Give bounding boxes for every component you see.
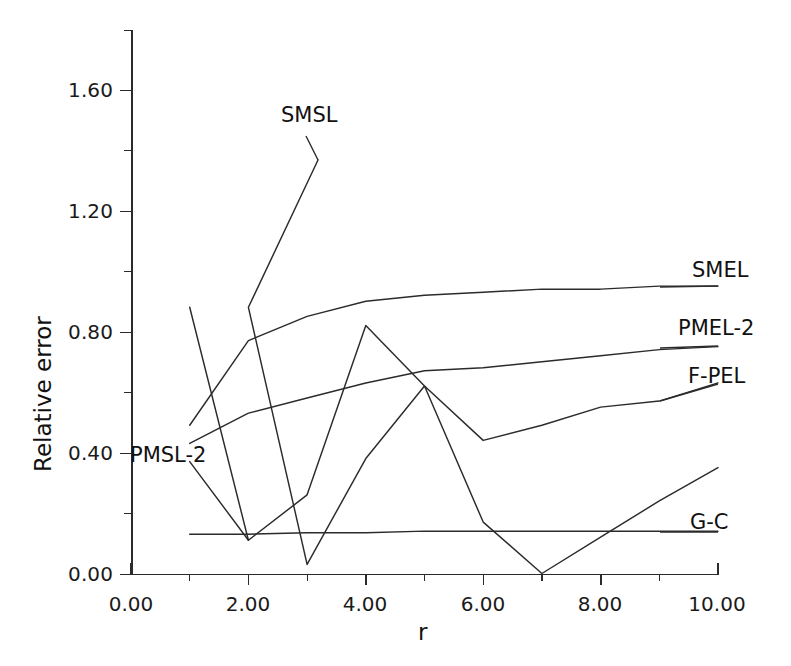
series-line-fpel [190, 307, 718, 540]
series-line-pmel2 [190, 347, 718, 444]
series-label-smsl: SMSL [281, 103, 337, 127]
pmel2-leader-line [660, 346, 718, 348]
x-tick-label-10.00: 10.00 [672, 592, 762, 616]
x-tick-label-8.00: 8.00 [555, 592, 645, 616]
y-tick-minor-0.20 [124, 513, 131, 514]
x-tick-minor-7 [541, 574, 542, 581]
y-tick-label-1.60: 1.60 [45, 78, 113, 102]
y-tick-label-1.20: 1.20 [45, 199, 113, 223]
x-tick-major-10 [717, 563, 719, 575]
y-axis-top-cap [124, 30, 131, 31]
y-tick-major-1.60 [120, 90, 131, 92]
y-axis-title: Relative error [30, 316, 56, 472]
series-line-gc [190, 531, 718, 534]
x-tick-label-0.00: 0.00 [86, 592, 176, 616]
x-tick-minor-3 [307, 574, 308, 581]
smsl-leader-line [306, 136, 318, 160]
series-label-pmsl2: PMSL-2 [130, 443, 206, 467]
y-tick-major-0.80 [120, 332, 131, 334]
x-axis-title: r [418, 619, 427, 645]
series-label-smel: SMEL [692, 258, 748, 282]
x-tick-major-2 [248, 574, 250, 585]
smel-leader-line [660, 286, 718, 287]
y-tick-minor-1.00 [124, 271, 131, 272]
x-tick-label-4.00: 4.00 [320, 592, 410, 616]
x-tick-major-8 [600, 574, 602, 585]
y-tick-label-0.00: 0.00 [45, 562, 113, 586]
plot-lines [0, 0, 791, 666]
y-axis-line [131, 30, 133, 575]
chart-figure: 1.60 1.20 0.80 0.40 0.00 0.00 2.00 4.00 … [0, 0, 791, 666]
y-tick-minor-1.40 [124, 150, 131, 151]
y-tick-major-0.00 [120, 574, 131, 576]
x-tick-label-2.00: 2.00 [203, 592, 293, 616]
x-tick-minor-9 [659, 574, 660, 581]
x-tick-major-0 [130, 563, 132, 575]
series-line-smel [190, 286, 718, 425]
x-tick-minor-1 [189, 574, 190, 581]
series-label-fpel: F-PEL [688, 364, 745, 388]
series-label-pmel2: PMEL-2 [678, 316, 754, 340]
x-tick-major-4 [365, 574, 367, 585]
x-tick-major-6 [483, 574, 485, 585]
y-tick-minor-0.60 [124, 392, 131, 393]
series-line-pmsl2 [190, 462, 249, 541]
series-line-smsl [248, 160, 718, 574]
x-tick-label-6.00: 6.00 [438, 592, 528, 616]
series-label-gc: G-C [690, 510, 729, 534]
x-tick-minor-5 [424, 574, 425, 581]
y-tick-major-1.20 [120, 211, 131, 213]
